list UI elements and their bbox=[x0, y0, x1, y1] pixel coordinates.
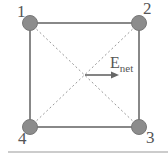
enet-label-main: E bbox=[110, 54, 120, 71]
particle-3 bbox=[132, 120, 147, 135]
particle-label-4: 4 bbox=[18, 129, 27, 148]
particle-label-3: 3 bbox=[146, 128, 155, 147]
particle-label-2: 2 bbox=[143, 0, 152, 18]
enet-label-sub: net bbox=[120, 62, 133, 74]
enet-label: Enet bbox=[110, 54, 133, 74]
diagram-canvas: 1 2 3 4 Enet bbox=[0, 0, 168, 157]
enet-arrow-head bbox=[111, 72, 119, 79]
particle-label-1: 1 bbox=[17, 2, 26, 21]
